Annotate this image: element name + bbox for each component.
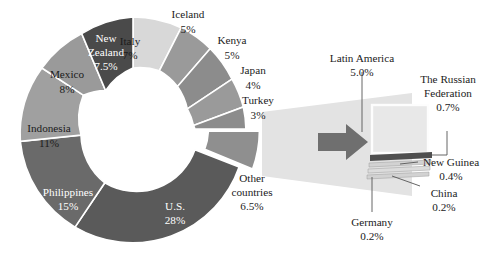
label-other-countries-line2: countries	[231, 186, 272, 198]
label-china-value: 0.2%	[432, 201, 455, 213]
breakout-block-latin-america[interactable]	[372, 105, 428, 153]
label-kenya-name: Kenya	[217, 34, 246, 46]
label-russian-federation-line2: Federation	[424, 87, 472, 99]
label-iceland-value: 5%	[181, 23, 196, 35]
label-latin-america-name: Latin America	[330, 52, 394, 64]
label-new-guinea-name: New Guinea	[423, 156, 479, 168]
label-germany-name: Germany	[351, 216, 393, 228]
label-germany-value: 0.2%	[360, 230, 383, 242]
label-russian-federation-value: 0.7%	[436, 101, 459, 113]
label-indonesia-name: Indonesia	[27, 122, 71, 134]
label-philippines-value: 15%	[58, 200, 79, 212]
label-china-name: China	[431, 187, 458, 199]
label-new-zealand-value: 7.5%	[94, 60, 117, 72]
label-russian-federation-line1: The Russian	[420, 73, 476, 85]
label-us-name: U.S.	[165, 200, 185, 212]
label-iceland-name: Iceland	[172, 8, 205, 20]
label-us-value: 28%	[165, 214, 186, 226]
label-new-guinea-value: 0.4%	[439, 170, 462, 182]
label-turkey-value: 3%	[251, 109, 266, 121]
label-mexico-value: 8%	[60, 83, 75, 95]
label-turkey-name: Turkey	[242, 94, 274, 106]
label-other-countries-value: 6.5%	[240, 200, 263, 212]
label-indonesia-value: 11%	[39, 137, 59, 149]
label-philippines-name: Philippines	[43, 186, 93, 198]
label-kenya-value: 5%	[225, 49, 240, 61]
chart-canvas: Italy 7% Iceland 5% Kenya 5% Japan 4% Tu…	[0, 0, 486, 261]
label-other-countries-line1: Other	[239, 172, 265, 184]
label-new-zealand-line2: Zealand	[88, 46, 124, 58]
label-new-zealand-line1: New	[95, 32, 117, 44]
label-mexico-name: Mexico	[50, 68, 85, 80]
label-japan-name: Japan	[240, 64, 266, 76]
label-latin-america-value: 5.0%	[350, 66, 373, 78]
label-italy-value: 7%	[123, 49, 138, 61]
label-japan-value: 4%	[246, 79, 261, 91]
doughnut-chart-svg: Italy 7% Iceland 5% Kenya 5% Japan 4% Tu…	[0, 0, 486, 261]
